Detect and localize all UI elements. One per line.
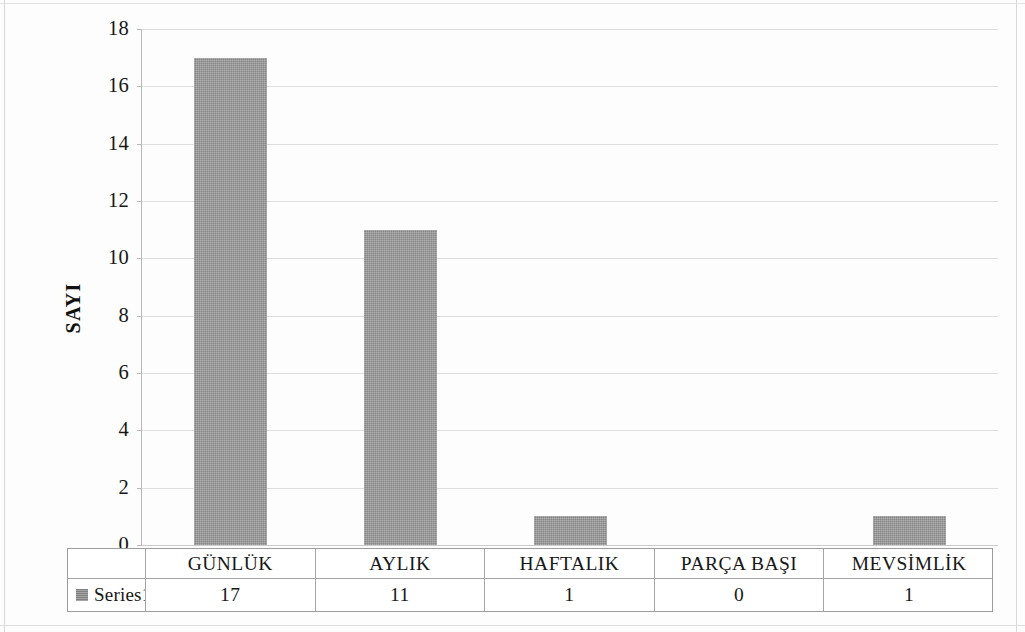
page-edge-bottom [0,625,1025,626]
page-edge-top [0,3,1025,4]
y-tick-mark-18 [137,29,142,30]
y-tick-mark-4 [137,430,142,431]
legend-label: Series1 [94,584,146,606]
gridline-4 [142,430,998,431]
y-tick-mark-6 [137,373,142,374]
gridline-8 [142,316,998,317]
y-axis-tick-label-18: 18 [89,18,129,38]
y-tick-mark-10 [137,258,142,259]
y-tick-mark-0 [137,545,142,546]
y-axis-tick-label-4: 4 [89,419,129,439]
y-tick-mark-2 [137,488,142,489]
table-cell-legend-blank [68,549,146,578]
plot-area [141,29,997,545]
table-cell-value-2: 1 [485,579,655,611]
y-tick-mark-16 [137,86,142,87]
chart-data-table: GÜNLÜKAYLIKHAFTALIKPARÇA BAŞIMEVSİMLİK S… [67,548,993,612]
table-row-values: Series1 1711101 [68,579,992,611]
table-cell-category-3: PARÇA BAŞI [655,549,825,578]
y-axis-tick-label-16: 16 [89,75,129,95]
gridline-0 [142,545,998,546]
y-axis-tick-label-10: 10 [89,247,129,267]
y-axis-tick-label-8: 8 [89,305,129,325]
gridline-18 [142,29,998,30]
table-row-categories: GÜNLÜKAYLIKHAFTALIKPARÇA BAŞIMEVSİMLİK [68,549,992,579]
gridline-6 [142,373,998,374]
gridline-16 [142,86,998,87]
table-cell-category-0: GÜNLÜK [146,549,316,578]
y-axis-tick-label-2: 2 [89,477,129,497]
bar-mevsi̇mli̇k [873,516,946,545]
table-cell-category-4: MEVSİMLİK [824,549,994,578]
page-edge-right [1016,0,1017,632]
y-tick-mark-12 [137,201,142,202]
bar-günlük [194,58,267,545]
gridline-14 [142,144,998,145]
y-tick-mark-14 [137,144,142,145]
table-cell-value-4: 1 [824,579,994,611]
y-axis-tick-label-14: 14 [89,133,129,153]
gridline-12 [142,201,998,202]
legend-entry-series1: Series1 [68,579,146,611]
gridline-2 [142,488,998,489]
table-cell-category-2: HAFTALIK [485,549,655,578]
y-axis-tick-label-12: 12 [89,190,129,210]
table-cell-category-1: AYLIK [316,549,486,578]
table-cell-value-3: 0 [655,579,825,611]
y-tick-mark-8 [137,316,142,317]
gridline-10 [142,258,998,259]
table-cell-value-1: 11 [316,579,486,611]
bar-haftalik [534,516,607,545]
page-edge-left [4,0,5,632]
chart-page: SAYI 181614121086420 GÜNLÜKAYLIKHAFTALIK… [0,0,1025,632]
bar-aylik [364,230,437,545]
legend-swatch-icon [76,589,88,601]
table-cell-value-0: 17 [146,579,316,611]
y-axis-tick-label-6: 6 [89,362,129,382]
